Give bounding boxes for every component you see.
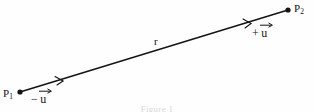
point-label-p2: P2: [294, 3, 304, 15]
point-label-p1: P1: [3, 88, 13, 100]
overarrow-icon: [260, 22, 273, 27]
point-label-p2-subscript: 2: [300, 7, 304, 16]
figure-caption: Figure 1: [0, 104, 314, 112]
vector-symbol-u-plus: u: [261, 26, 268, 39]
vector-label-plus-u: +u: [252, 26, 268, 39]
overarrow-icon: [39, 88, 52, 93]
point-dot-p1: [17, 89, 22, 94]
point-label-p1-subscript: 1: [9, 92, 13, 101]
point-dot-p2: [285, 7, 290, 12]
vector-sign-plus: +: [252, 27, 259, 39]
vector-diagram-svg: [0, 0, 314, 112]
figure-container: P1 P2 r −u +u Figure 1: [0, 0, 314, 112]
vector-letter-u-plus: u: [261, 26, 268, 40]
segment-length-label-r: r: [154, 36, 158, 47]
